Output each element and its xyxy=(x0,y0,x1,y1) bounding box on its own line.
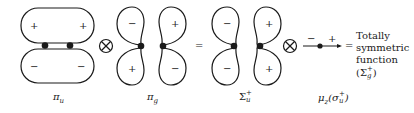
nucleus-dot xyxy=(42,42,49,49)
sign: + xyxy=(30,20,38,32)
sigma-u-label: Σ+u xyxy=(239,90,252,104)
sign: − xyxy=(223,18,231,30)
sign: − xyxy=(77,61,85,73)
sign: + xyxy=(265,18,273,30)
sign: − xyxy=(30,61,38,73)
sign: + xyxy=(171,18,179,30)
result-line-1: Totally xyxy=(356,30,409,42)
sign: + xyxy=(328,33,336,45)
nucleus-dot xyxy=(231,43,238,50)
equals-sign: = xyxy=(195,40,203,52)
sign: + xyxy=(265,63,273,75)
nucleus-dot xyxy=(67,42,74,49)
result-line-2: symmetric xyxy=(356,42,409,54)
sign: + xyxy=(128,63,136,75)
arrow-head-icon xyxy=(337,44,342,48)
sign: − xyxy=(223,63,231,75)
nucleus-dot xyxy=(160,43,167,50)
sign: + xyxy=(79,20,87,32)
result-line-3: function xyxy=(356,54,409,66)
origin-dot xyxy=(317,43,322,48)
sign: − xyxy=(171,63,179,75)
sign: − xyxy=(307,33,315,45)
tensor-product-icon-1 xyxy=(100,40,113,53)
result-symmetry-label: (Σ+g) xyxy=(356,66,409,80)
nucleus-dot xyxy=(257,43,264,50)
result-text: Totally symmetric function (Σ+g) xyxy=(356,30,409,80)
nucleus-dot xyxy=(138,43,145,50)
equals-sign: = xyxy=(345,40,353,52)
pi-g-label: πg xyxy=(147,91,158,105)
sign: − xyxy=(128,18,136,30)
mu-z-label: μz(σ+u) xyxy=(318,91,349,106)
tensor-product-icon-2 xyxy=(284,40,297,53)
pi-u-label: πu xyxy=(53,91,64,105)
